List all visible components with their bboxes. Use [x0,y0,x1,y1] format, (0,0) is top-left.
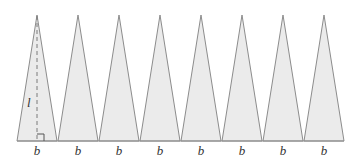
base-label-2: b [68,143,88,159]
triangle-6 [222,15,262,141]
triangle-4 [140,15,180,141]
base-label-4: b [150,143,170,159]
triangle-2 [58,15,98,141]
triangle-5 [181,15,221,141]
triangle-8 [304,15,344,141]
triangle-7 [263,15,303,141]
triangle-3 [99,15,139,141]
height-label: l [27,95,31,111]
base-label-5: b [191,143,211,159]
triangles-figure [0,0,353,164]
triangles [17,15,344,141]
base-label-7: b [273,143,293,159]
base-label-8: b [314,143,334,159]
base-label-1: b [27,143,47,159]
base-label-3: b [109,143,129,159]
base-label-6: b [232,143,252,159]
